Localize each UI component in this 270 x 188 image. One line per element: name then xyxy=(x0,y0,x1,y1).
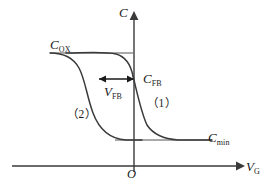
cmin-label-main: C xyxy=(208,130,217,145)
cox-label: COX xyxy=(50,38,71,51)
cmin-label: Cmin xyxy=(208,131,230,144)
cv-curve-canvas xyxy=(0,0,270,188)
curve-two-path xyxy=(50,53,142,140)
cfb-label: CFB xyxy=(143,72,162,85)
vg-axis-label-main: V xyxy=(246,159,254,174)
x-axis-arrowhead xyxy=(236,162,245,171)
vg-axis-label: VG xyxy=(246,160,260,173)
vfb-label-sub: FB xyxy=(112,92,122,101)
curve-two-label: （2） xyxy=(67,109,96,121)
cox-label-main: C xyxy=(50,37,59,52)
vfb-label: VFB xyxy=(104,85,122,98)
cmin-label-sub: min xyxy=(217,138,230,147)
cv-characteristic-figure: COX CFB Cmin VFB C VG （1） （2） O xyxy=(0,0,270,188)
cox-label-sub: OX xyxy=(59,45,71,54)
vfb-double-arrow xyxy=(99,76,134,83)
curve-one-label: （1） xyxy=(147,98,176,110)
cfb-label-sub: FB xyxy=(152,79,162,88)
vg-axis-label-sub: G xyxy=(254,167,260,176)
origin-label: O xyxy=(127,168,136,181)
y-axis-arrowhead xyxy=(130,11,139,20)
c-axis-label: C xyxy=(119,6,128,19)
c-axis-label-main: C xyxy=(119,5,128,20)
vfb-label-main: V xyxy=(104,84,112,99)
cfb-label-main: C xyxy=(143,71,152,86)
vfb-arrowhead-left xyxy=(99,76,106,83)
